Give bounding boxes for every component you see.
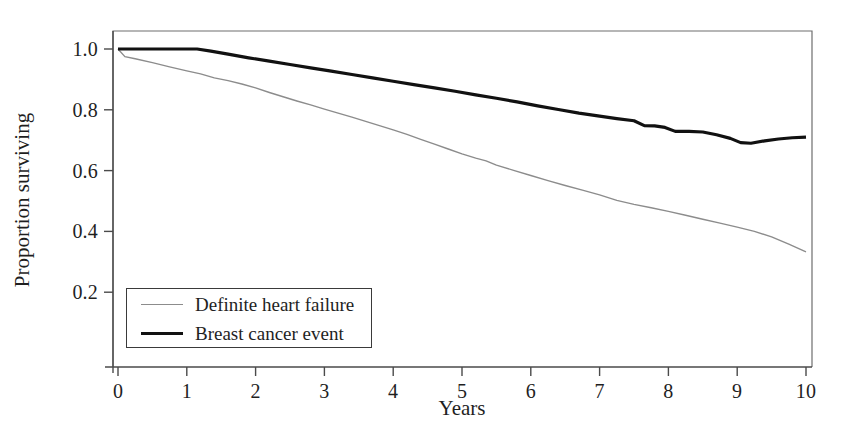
x-tick-label: 2	[250, 380, 260, 403]
data-series	[118, 49, 806, 252]
y-tick-label: 0.2	[38, 281, 98, 304]
survival-curve-figure: 0.20.40.60.81.0 012345678910 Proportion …	[0, 0, 852, 440]
legend-label: Breast cancer event	[195, 324, 344, 343]
legend-box: Definite heart failure Breast cancer eve…	[126, 288, 372, 348]
x-tick-label: 1	[182, 380, 192, 403]
series-line-breast-cancer-event	[118, 49, 806, 143]
x-tick-label: 7	[594, 380, 604, 403]
legend-line-swatch-gray	[141, 304, 183, 305]
x-tick-label: 0	[113, 380, 123, 403]
legend-line-swatch-black	[141, 332, 183, 335]
x-tick-label: 3	[319, 380, 329, 403]
plot-area	[0, 0, 852, 440]
y-tick-label: 0.8	[38, 98, 98, 121]
x-tick-label: 6	[526, 380, 536, 403]
y-tick-label: 0.4	[38, 220, 98, 243]
y-tick-label: 1.0	[38, 38, 98, 61]
legend-label: Definite heart failure	[195, 295, 354, 314]
x-tick-label: 4	[388, 380, 398, 403]
y-tick-label: 0.6	[38, 159, 98, 182]
x-tick-label: 10	[796, 380, 816, 403]
x-tick-label: 9	[732, 380, 742, 403]
x-axis-title: Years	[439, 396, 486, 421]
series-line-definite-heart-failure	[118, 49, 806, 252]
legend-item-definite-heart-failure: Definite heart failure	[127, 289, 371, 319]
legend-item-breast-cancer-event: Breast cancer event	[127, 318, 371, 348]
y-axis-title: Proportion surviving	[10, 113, 35, 287]
x-tick-label: 8	[663, 380, 673, 403]
